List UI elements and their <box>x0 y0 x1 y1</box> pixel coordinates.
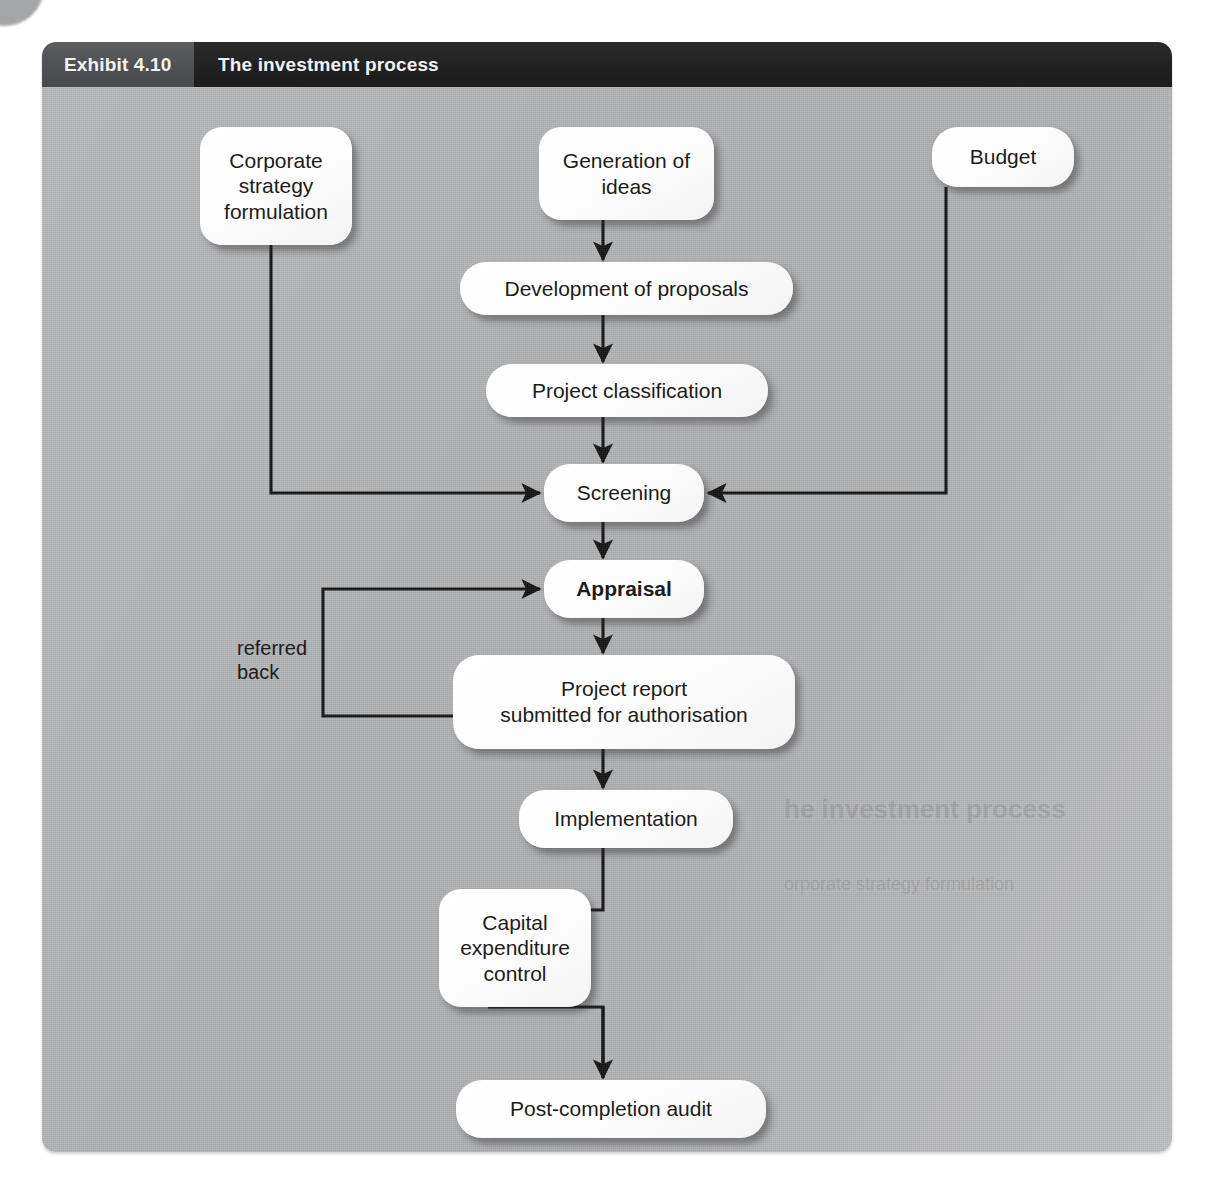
node-screening-label: Screening <box>577 480 672 506</box>
exhibit-title: The investment process <box>218 54 439 76</box>
edge-label-referred-back: referred back <box>237 636 307 684</box>
node-implementation[interactable]: Implementation <box>519 790 733 848</box>
node-generation-of-ideas-label: Generation of ideas <box>563 148 690 199</box>
edge-budget-to-screening <box>708 187 946 493</box>
node-project-report[interactable]: Project report submitted for authorisati… <box>453 655 795 749</box>
node-development-of-proposals[interactable]: Development of proposals <box>460 262 793 315</box>
exhibit-number-block: Exhibit 4.10 <box>42 42 194 87</box>
node-appraisal[interactable]: Appraisal <box>544 560 704 618</box>
node-corporate-strategy[interactable]: Corporate strategy formulation <box>200 127 352 245</box>
page-corner-mark <box>0 0 44 26</box>
exhibit-title-block: The investment process <box>194 42 1172 87</box>
node-development-of-proposals-label: Development of proposals <box>505 276 749 302</box>
exhibit-header: Exhibit 4.10 The investment process <box>42 42 1172 87</box>
node-implementation-label: Implementation <box>554 806 698 832</box>
node-corporate-strategy-label: Corporate strategy formulation <box>224 148 328 225</box>
node-appraisal-label: Appraisal <box>576 576 672 602</box>
node-post-completion-audit[interactable]: Post-completion audit <box>456 1080 766 1138</box>
node-project-classification-label: Project classification <box>532 378 722 404</box>
node-budget-label: Budget <box>970 144 1037 170</box>
node-capital-expenditure-control-label: Capital expenditure control <box>460 910 570 987</box>
node-screening[interactable]: Screening <box>544 464 704 522</box>
node-capital-expenditure-control[interactable]: Capital expenditure control <box>439 889 591 1007</box>
node-budget[interactable]: Budget <box>932 127 1074 187</box>
exhibit-page: Exhibit 4.10 The investment process he i… <box>0 0 1209 1187</box>
exhibit-panel: Exhibit 4.10 The investment process he i… <box>42 42 1172 1152</box>
node-post-completion-audit-label: Post-completion audit <box>510 1096 712 1122</box>
edge-capex-return-loop <box>488 1007 603 1078</box>
flowchart-stage: Corporate strategy formulation Generatio… <box>42 42 1172 1152</box>
node-project-classification[interactable]: Project classification <box>486 364 768 417</box>
node-generation-of-ideas[interactable]: Generation of ideas <box>539 127 714 220</box>
node-project-report-label: Project report submitted for authorisati… <box>500 676 747 727</box>
exhibit-number-label: Exhibit 4.10 <box>64 54 171 76</box>
